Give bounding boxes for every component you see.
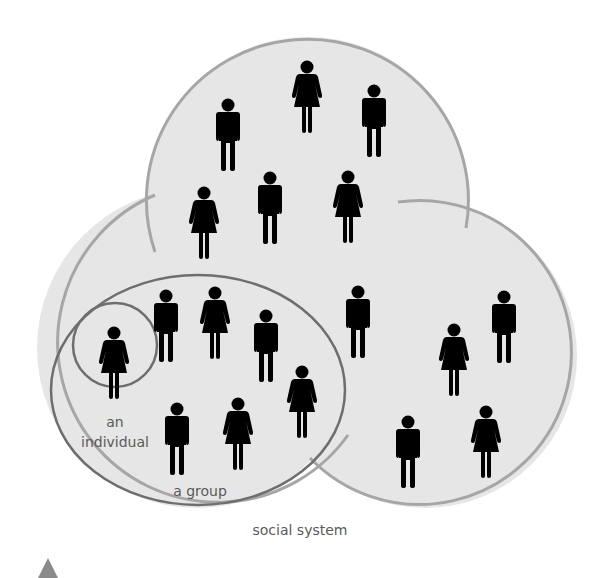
social-system-diagram: an individual a group social system [0,0,602,578]
individual-label-line1: an [106,414,123,430]
group-label: a group [173,483,227,499]
individual-label-line2: individual [81,434,149,450]
triangle-marker-icon [38,558,58,578]
system-label: social system [253,522,348,538]
